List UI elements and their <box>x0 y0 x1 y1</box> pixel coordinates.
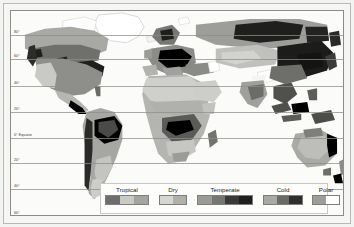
swatch-cold-3 <box>289 196 302 204</box>
swatch-temperate-3 <box>225 196 239 204</box>
gridline-20n <box>11 112 343 113</box>
legend-group-temperate: Temperate <box>197 186 253 205</box>
gridline-equator <box>11 138 343 139</box>
swatch-tropical-1 <box>106 196 120 204</box>
legend-label-dry: Dry <box>159 186 187 193</box>
swatch-temperate-4 <box>239 196 253 204</box>
legend-label-cold: Cold <box>263 186 303 193</box>
legend-group-polar: Polar <box>312 186 340 205</box>
swatch-dry-1 <box>160 196 173 204</box>
swatch-temperate-2 <box>212 196 226 204</box>
legend-label-polar: Polar <box>312 186 340 193</box>
british-isles <box>144 49 152 59</box>
gridline-80n <box>11 35 343 36</box>
lat-label-20s: 20° <box>14 158 20 162</box>
new-zealand-temperate <box>339 158 343 176</box>
legend-swatches-tropical <box>105 195 149 205</box>
world-climate-map-figure: 80° 60° 40° 20° 0° Equator 20° 40° 60° T… <box>0 0 354 227</box>
legend-group-tropical: Tropical <box>105 186 149 205</box>
gridline-40n <box>11 86 343 87</box>
gridline-60n <box>11 59 343 60</box>
china-temperate <box>269 64 307 84</box>
swatch-cold-1 <box>264 196 277 204</box>
lat-label-60n: 60° <box>14 54 20 58</box>
lat-label-60s: 60° <box>14 211 20 215</box>
lat-label-40s: 40° <box>14 184 20 188</box>
legend-swatches-cold <box>263 195 303 205</box>
swatch-polar-2 <box>326 196 339 204</box>
swatch-dry-2 <box>173 196 186 204</box>
lat-label-80n: 80° <box>14 30 20 34</box>
legend-swatches-polar <box>312 195 340 205</box>
java-tropical <box>281 114 301 122</box>
florida-temperate <box>94 86 100 96</box>
lat-label-20n: 20° <box>14 107 20 111</box>
legend-group-cold: Cold <box>263 186 303 205</box>
gridline-20s <box>11 163 343 164</box>
lat-label-equator: 0° Equator <box>14 133 32 137</box>
philippines-tropical <box>307 88 317 100</box>
legend-swatches-temperate <box>197 195 253 205</box>
kamchatka-cold <box>329 31 341 47</box>
legend-swatches-dry <box>159 195 187 205</box>
lat-label-40n: 40° <box>14 81 20 85</box>
legend-label-tropical: Tropical <box>105 186 149 193</box>
climate-legend: Tropical Dry Temperate Col <box>105 186 320 212</box>
legend-label-temperate: Temperate <box>197 186 253 193</box>
swatch-tropical-3 <box>134 196 148 204</box>
south-america-dry-south <box>94 156 112 184</box>
svalbard-polar <box>178 17 190 25</box>
swatch-polar-1 <box>313 196 326 204</box>
tasmania-temperate <box>323 167 331 175</box>
swatch-cold-2 <box>277 196 290 204</box>
legend-group-dry: Dry <box>159 186 187 205</box>
iberia-mediterranean <box>142 64 158 76</box>
swatch-temperate-1 <box>198 196 212 204</box>
swatch-tropical-2 <box>120 196 134 204</box>
